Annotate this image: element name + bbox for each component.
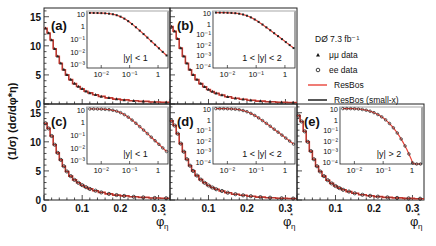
inset-x-tick: 10⁻¹ bbox=[122, 70, 138, 79]
legend-ee-marker bbox=[316, 68, 320, 72]
y-tick-label: 15 bbox=[30, 12, 42, 23]
inset-x-tick: 10⁻¹ bbox=[122, 166, 138, 175]
inset-y-tick: 10⁻² bbox=[70, 144, 85, 153]
inset-y-tick: 10⁻¹ bbox=[70, 131, 85, 140]
y-tick-label: 10 bbox=[30, 137, 42, 148]
panel-label: (b) bbox=[177, 18, 194, 33]
x-tick-label: 0.1 bbox=[329, 203, 343, 214]
inset-y-tick: 10 bbox=[77, 106, 85, 115]
y-tick-label: 5 bbox=[35, 166, 41, 177]
y-tick-label: 5 bbox=[35, 70, 41, 81]
inset-x-tick: 1 bbox=[283, 166, 288, 175]
inset-y-tick: 10⁻³ bbox=[196, 51, 211, 60]
inset-y-tick: 10 bbox=[77, 10, 85, 19]
x-axis-label-sub: η bbox=[291, 222, 295, 231]
panel-label: (d) bbox=[177, 114, 194, 129]
inset-y-tick: 10⁻² bbox=[196, 41, 211, 50]
legend-entry: ResBos (small-x) bbox=[334, 95, 399, 105]
figure: (a)10⁻²10⁻¹110110⁻¹10⁻²10⁻³|y| < 1051015… bbox=[0, 0, 436, 246]
x-tick-label: 0 bbox=[41, 203, 47, 214]
inset-y-tick: 1 bbox=[334, 116, 338, 125]
rapidity-label: 1 < |y| < 2 bbox=[242, 53, 282, 63]
inset-x-tick: 1 bbox=[156, 166, 161, 175]
x-axis-label-star: * bbox=[163, 211, 166, 220]
inset-x-tick: 1 bbox=[283, 70, 288, 79]
y-axis-label: (1/σ) (dσ/dφ*η) bbox=[6, 82, 18, 160]
inset-y-tick: 1 bbox=[81, 22, 85, 31]
rapidity-label: 1 < |y| < 2 bbox=[242, 149, 282, 159]
rapidity-label: |y| > 2 bbox=[377, 149, 401, 159]
inset-y-tick: 1 bbox=[81, 118, 85, 127]
inset-x-tick: 10⁻² bbox=[347, 166, 363, 175]
panel-label: (e) bbox=[304, 114, 320, 129]
y-tick-label: 10 bbox=[30, 41, 42, 52]
inset-x-tick: 10⁻¹ bbox=[248, 166, 264, 175]
inset-x-tick: 1 bbox=[410, 166, 415, 175]
inset-y-tick: 10⁻¹ bbox=[196, 126, 211, 135]
inset-x-tick: 10⁻¹ bbox=[375, 166, 391, 175]
y-tick-label: 0 bbox=[35, 195, 41, 206]
inset-y-tick: 10⁻² bbox=[70, 48, 85, 57]
legend-entry: ee data bbox=[329, 65, 358, 75]
inset-y-tick: 10⁻⁴ bbox=[322, 158, 338, 167]
inset-x-tick: 10⁻² bbox=[93, 166, 109, 175]
panel-label: (c) bbox=[51, 114, 67, 129]
x-axis-label-star: * bbox=[417, 211, 420, 220]
inset-y-tick: 10⁻⁴ bbox=[195, 62, 211, 71]
inset-y-tick: 10 bbox=[203, 9, 211, 18]
x-axis-label-sub: η bbox=[164, 222, 168, 231]
inset-y-tick: 10⁻¹ bbox=[323, 126, 338, 135]
x-axis-label-sub: η bbox=[418, 222, 422, 231]
inset-y-tick: 10⁻³ bbox=[323, 147, 338, 156]
legend-entry: ResBos bbox=[334, 80, 364, 90]
x-tick-label: 0.2 bbox=[240, 203, 254, 214]
inset-y-tick: 10⁻⁴ bbox=[195, 158, 211, 167]
inset-y-tick: 10⁻³ bbox=[70, 60, 85, 69]
x-tick-label: 0.1 bbox=[202, 203, 216, 214]
panel-label: (a) bbox=[51, 18, 67, 33]
rapidity-label: |y| < 1 bbox=[123, 53, 147, 63]
inset-x-tick: 10⁻² bbox=[220, 70, 236, 79]
inset-y-tick: 1 bbox=[207, 116, 211, 125]
x-tick-label: 0.2 bbox=[367, 203, 381, 214]
y-tick-label: 15 bbox=[30, 108, 42, 119]
inset-y-tick: 10⁻² bbox=[323, 137, 338, 146]
inset-y-tick: 10 bbox=[203, 105, 211, 114]
inset-x-tick: 10⁻² bbox=[93, 70, 109, 79]
legend-mumu-marker bbox=[316, 53, 320, 57]
x-axis-label-star: * bbox=[290, 211, 293, 220]
inset-y-tick: 10⁻¹ bbox=[70, 35, 85, 44]
inset-y-tick: 10⁻¹ bbox=[196, 30, 211, 39]
inset-y-tick: 10 bbox=[330, 105, 338, 114]
inset-x-tick: 10⁻² bbox=[220, 166, 236, 175]
inset-x-tick: 10⁻¹ bbox=[248, 70, 264, 79]
inset-x-tick: 1 bbox=[156, 70, 161, 79]
inset-y-tick: 10⁻³ bbox=[196, 147, 211, 156]
inset-y-tick: 10⁻² bbox=[196, 137, 211, 146]
inset-y-tick: 1 bbox=[207, 20, 211, 29]
x-tick-label: 0.2 bbox=[113, 203, 127, 214]
inset-y-tick: 10⁻³ bbox=[70, 156, 85, 165]
legend-title: DØ 7.3 fb⁻¹ bbox=[315, 34, 359, 44]
legend-entry: μμ data bbox=[329, 50, 358, 60]
rapidity-label: |y| < 1 bbox=[123, 149, 147, 159]
x-tick-label: 0.1 bbox=[75, 203, 89, 214]
